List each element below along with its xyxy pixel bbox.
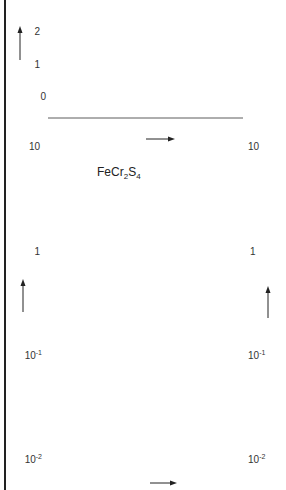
top-y-tick-2: 2 [34,26,40,37]
left-y-tick-0.1: 10-1 [25,349,42,361]
t-axis-arrow [150,481,177,486]
compound-title: FeCr2S4 [97,165,141,181]
right-y-tick-10: 10 [248,141,260,152]
top-y-tick-1: 1 [34,59,40,70]
top-y-tick-0: 0 [40,91,46,102]
mu-axis-arrow [266,286,271,318]
sigma-axis-arrow [21,279,26,312]
b-axis-arrow [146,137,175,142]
right-y-tick-0.01: 10-2 [248,453,265,465]
left-y-tick-0.01: 10-2 [25,453,42,465]
left-y-tick-1: 1 [34,246,40,257]
uh-axis-arrow [18,26,23,60]
right-y-tick-1: 1 [250,246,256,257]
right-y-tick-0.1: 10-1 [248,349,265,361]
left-y-tick-10: 10 [29,141,41,152]
figure: 2 1 0 10 1 10-1 10-2 10 1 10-1 10-2 FeCr… [0,0,286,490]
